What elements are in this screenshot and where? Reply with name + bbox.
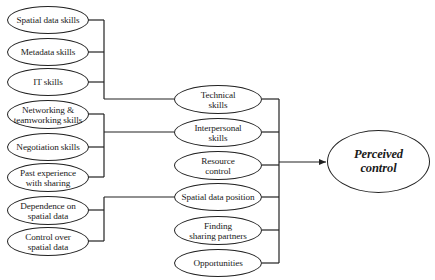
node-resource-control: Resource control (174, 151, 262, 180)
node-it-skills: IT skills (7, 68, 89, 96)
node-dependence-on-spatial-data: Dependence on spatial data (7, 196, 89, 225)
node-perceived-control: Perceived control (327, 130, 430, 193)
node-negotiation-skills: Negotiation skills (7, 133, 89, 161)
node-spatial-data-position: Spatial data position (174, 183, 262, 211)
node-control-over-spatial-data: Control over spatial data (7, 227, 89, 256)
node-interpersonal-skills: Interpersonal skills (174, 118, 262, 147)
node-metadata-skills: Metadata skills (7, 38, 89, 66)
node-past-experience-with-sharing: Past experience with sharing (7, 163, 89, 192)
node-spatial-data-skills: Spatial data skills (7, 6, 89, 34)
node-technical-skills: Technical skills (174, 85, 262, 114)
node-networking-teamworking-skills: Networking & teamworking skills (7, 100, 89, 129)
perceived-control-diagram: Spatial data skills Metadata skills IT s… (0, 0, 435, 280)
node-opportunities: Opportunities (174, 249, 262, 277)
node-finding-sharing-partners: Finding sharing partners (174, 216, 262, 245)
